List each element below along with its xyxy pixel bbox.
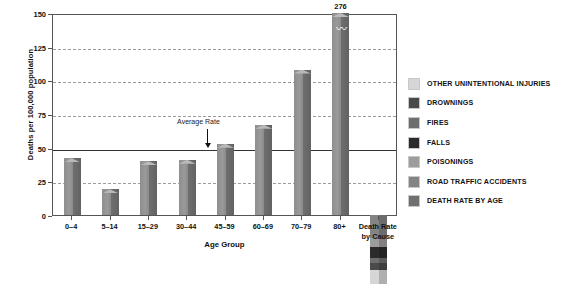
legend-swatch (408, 117, 420, 129)
chart-legend: OTHER UNINTENTIONAL INJURIESDROWNINGSFIR… (408, 74, 580, 211)
segment-side-face (379, 270, 387, 283)
legend-swatch (408, 137, 420, 149)
plot-area: 〰276 Average Rate (52, 14, 397, 216)
segment-front-face (370, 258, 379, 263)
legend-swatch (408, 78, 420, 90)
x-tick-mark (186, 216, 187, 220)
legend-item[interactable]: FALLS (408, 133, 580, 153)
bar-front-face (255, 125, 264, 215)
legend-label: DROWNINGS (427, 99, 473, 107)
average-rate-label: Average Rate (177, 118, 220, 125)
bar-front-face (140, 161, 149, 215)
legend-label: POISONINGS (427, 158, 473, 166)
bar-side-face (188, 160, 196, 215)
y-tick-label: 0 (12, 212, 46, 221)
x-tick-label-line1: Death Rate (351, 222, 405, 232)
bar-15-29[interactable] (140, 161, 157, 215)
bar-60-69[interactable] (255, 125, 272, 215)
y-tick-label: 50 (12, 144, 46, 153)
y-tick-label: 25 (12, 178, 46, 187)
x-tick-mark (110, 216, 111, 220)
y-tick-label: 75 (12, 111, 46, 120)
bar-80+[interactable]: 〰276 (332, 13, 349, 215)
legend-item[interactable]: FIRES (408, 113, 580, 133)
x-tick-mark (71, 216, 72, 220)
stacked-bar-death-rate-by-cause[interactable] (370, 146, 387, 215)
y-axis-title: Deaths per 100,000 population (26, 15, 35, 195)
bar-0-4[interactable] (64, 158, 81, 215)
legend-label: FIRES (427, 119, 449, 127)
bar-value-label: 276 (334, 2, 347, 11)
bar-side-face (73, 158, 81, 215)
x-axis-title: Age Group (52, 240, 397, 249)
bar-side-face (226, 144, 234, 215)
x-tick-mark (148, 216, 149, 220)
legend-label: ROAD TRAFFIC ACCIDENTS (427, 178, 527, 186)
y-tick-mark (48, 216, 52, 217)
bar-front-face (332, 13, 341, 215)
segment-side-face (379, 263, 387, 270)
y-tick-label: 100 (12, 77, 46, 86)
bar-30-44[interactable] (179, 160, 196, 215)
legend-swatch (408, 97, 420, 109)
y-tick-label: 150 (12, 10, 46, 19)
legend-swatch (408, 176, 420, 188)
segment-front-face (370, 263, 379, 270)
stack-segment (370, 263, 387, 270)
bar-front-face (179, 160, 188, 215)
segment-side-face (379, 258, 387, 263)
x-tick-mark (378, 216, 379, 220)
legend-label: FALLS (427, 139, 450, 147)
bar-5-14[interactable] (102, 189, 119, 215)
x-tick-mark (263, 216, 264, 220)
arrow-head (205, 143, 211, 148)
bar-front-face (294, 70, 303, 215)
bar-side-face (149, 161, 157, 215)
legend-item[interactable]: POISONINGS (408, 152, 580, 172)
stack-segment (370, 258, 387, 263)
legend-label: DEATH RATE BY AGE (427, 197, 503, 205)
bar-side-face (264, 125, 272, 215)
bar-70-79[interactable] (294, 70, 311, 215)
bar-side-face (303, 70, 311, 215)
bar-side-face (341, 13, 349, 215)
x-tick-label: Death Rateby Cause (351, 222, 405, 241)
legend-swatch (408, 195, 420, 207)
x-tick-mark (225, 216, 226, 220)
legend-swatch (408, 156, 420, 168)
legend-label: OTHER UNINTENTIONAL INJURIES (427, 80, 551, 88)
bar-front-face (217, 144, 226, 215)
x-tick-mark (301, 216, 302, 220)
y-tick-label: 125 (12, 43, 46, 52)
bar-45-59[interactable] (217, 144, 234, 215)
bar-front-face (64, 158, 73, 215)
legend-item[interactable]: OTHER UNINTENTIONAL INJURIES (408, 74, 580, 94)
legend-item[interactable]: DROWNINGS (408, 94, 580, 114)
stack-segment (370, 270, 387, 283)
x-tick-mark (340, 216, 341, 220)
legend-item[interactable]: ROAD TRAFFIC ACCIDENTS (408, 172, 580, 192)
axis-break-zigzag-icon: 〰 (331, 25, 350, 33)
legend-item[interactable]: DEATH RATE BY AGE (408, 192, 580, 212)
segment-front-face (370, 270, 379, 283)
